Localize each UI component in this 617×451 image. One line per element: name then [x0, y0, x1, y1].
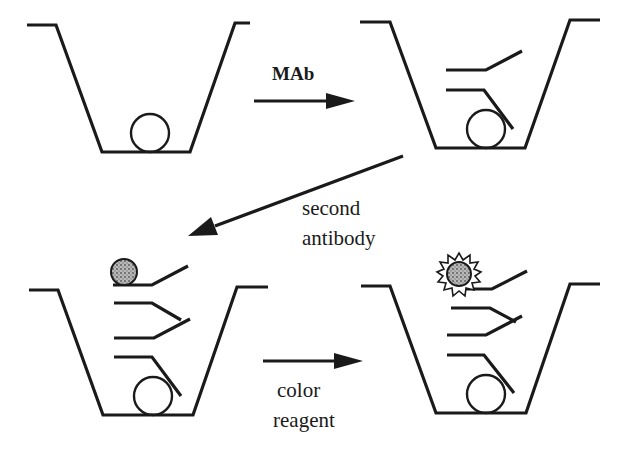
label-color: color — [277, 378, 320, 402]
label-reagent: reagent — [273, 408, 335, 432]
arrow-head-icon — [334, 353, 363, 369]
arrow-head-icon — [326, 93, 355, 109]
well-outline — [361, 284, 600, 413]
label-antibody: antibody — [302, 226, 376, 250]
antigen-circle — [467, 375, 505, 413]
mab-antibody-upper-arm — [114, 319, 190, 338]
second-antibody-lower-arm — [114, 303, 181, 320]
well-outline — [27, 23, 250, 152]
well-outline — [360, 20, 600, 148]
label-mab: MAb — [272, 63, 314, 84]
antigen-circle — [467, 110, 505, 148]
well-outline — [29, 287, 268, 415]
mab-antibody-upper-arm — [446, 51, 522, 70]
arrow-color-reagent: color reagent — [263, 353, 363, 432]
well-3 — [29, 259, 268, 415]
antigen-circle — [134, 377, 172, 415]
arrow-second-antibody: second antibody — [188, 156, 403, 250]
well-4 — [361, 253, 600, 413]
well-1 — [27, 23, 250, 152]
elisa-diagram: MAb second antibody color reagent — [0, 0, 617, 451]
enzyme-label-icon — [447, 262, 471, 286]
antigen-circle — [131, 114, 169, 152]
second-antibody-lower-arm — [451, 308, 516, 322]
label-second: second — [302, 196, 361, 220]
enzyme-label-icon — [111, 259, 137, 285]
arrow-mab: MAb — [254, 63, 355, 109]
arrow-head-icon — [188, 217, 218, 236]
well-2 — [360, 20, 600, 148]
